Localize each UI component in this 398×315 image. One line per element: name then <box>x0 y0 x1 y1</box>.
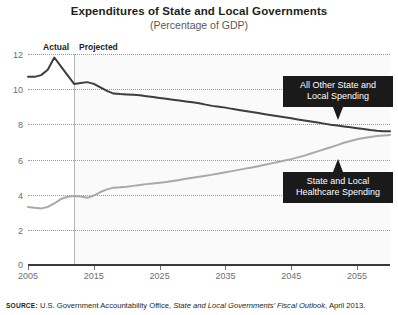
x-axis-tick <box>225 266 226 270</box>
source-note: SOURCE: U.S. Government Accountability O… <box>6 301 394 310</box>
x-axis-tick <box>94 266 95 270</box>
source-publication: State and Local Governments’ Fiscal Outl… <box>173 301 325 310</box>
y-axis-tick-label: 12 <box>13 50 23 60</box>
callout-healthcare-spending: State and Local Healthcare Spending <box>283 172 393 203</box>
pointer-up-icon <box>333 159 343 172</box>
x-axis-tick-label: 2015 <box>84 271 104 281</box>
y-axis-tick-label: 10 <box>13 85 23 95</box>
y-axis-tick-label: 8 <box>18 120 23 130</box>
source-agency: U.S. Government Accountability Office, <box>38 301 173 310</box>
y-axis-tick-label: 2 <box>18 226 23 236</box>
y-axis-tick-label: 6 <box>18 156 23 166</box>
x-axis-tick-label: 2035 <box>215 271 235 281</box>
actual-label: Actual <box>43 42 73 52</box>
callout-all-other-spending: All Other State and Local Spending <box>283 76 393 107</box>
pointer-down-icon <box>333 107 343 120</box>
page-title: Expenditures of State and Local Governme… <box>0 5 398 17</box>
figure: Expenditures of State and Local Governme… <box>0 0 398 315</box>
x-axis-tick-label: 2005 <box>18 271 38 281</box>
x-axis-tick-label: 2055 <box>347 271 367 281</box>
source-date: , April 2013. <box>325 301 365 310</box>
x-axis-tick-label: 2045 <box>281 271 301 281</box>
x-axis-tick <box>357 266 358 270</box>
x-axis-tick <box>28 266 29 270</box>
projected-label: Projected <box>75 42 118 52</box>
x-axis-tick <box>160 266 161 270</box>
source-label: SOURCE: <box>6 302 38 309</box>
y-axis-tick-label: 0 <box>18 260 23 270</box>
x-axis-tick <box>291 266 292 270</box>
y-axis-tick-label: 4 <box>18 191 23 201</box>
chart-subtitle: (Percentage of GDP) <box>0 19 398 31</box>
x-axis-tick-label: 2025 <box>150 271 170 281</box>
x-axis-line <box>28 264 390 266</box>
